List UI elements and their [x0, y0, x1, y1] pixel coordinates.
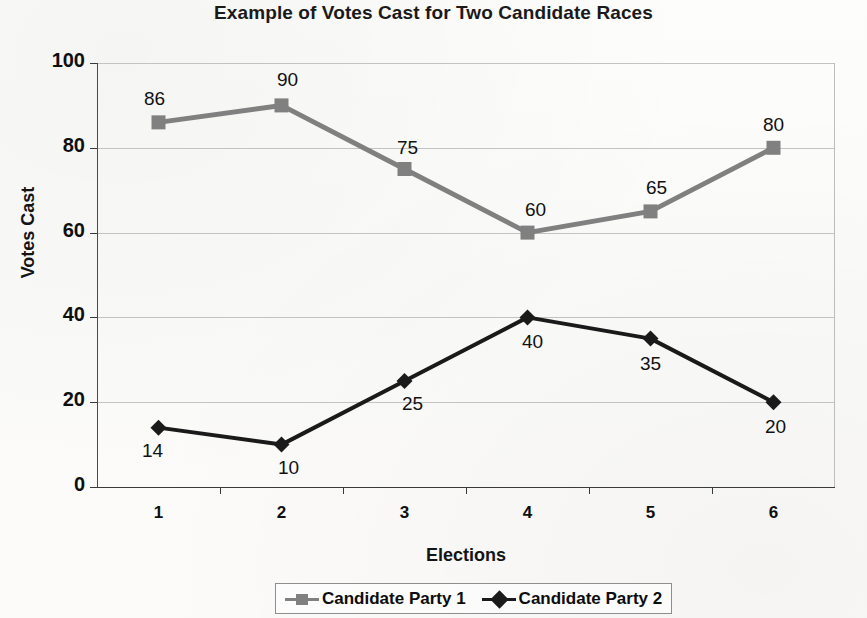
- data-point-marker: [643, 331, 659, 347]
- x-tick-label: 3: [375, 503, 435, 523]
- data-point-marker: [521, 226, 535, 240]
- y-tick-label: 20: [15, 388, 85, 411]
- y-tick-label: 60: [15, 219, 85, 242]
- legend-item[interactable]: Candidate Party 2: [482, 589, 663, 609]
- data-point-label: 14: [121, 440, 185, 462]
- x-axis-title: Elections: [97, 545, 835, 566]
- x-tick-mark: [220, 487, 221, 494]
- gridline: [97, 487, 835, 488]
- y-tick-mark: [90, 487, 97, 488]
- x-tick-label: 2: [252, 503, 312, 523]
- y-tick-mark: [90, 402, 97, 403]
- legend-square-marker-icon: [285, 592, 319, 606]
- series-line: [159, 317, 774, 444]
- x-tick-label: 4: [498, 503, 558, 523]
- legend-label: Candidate Party 1: [322, 589, 466, 609]
- data-point-label: 10: [257, 457, 321, 479]
- series-lines: [97, 63, 835, 487]
- data-point-marker: [275, 98, 289, 112]
- x-tick-mark: [343, 487, 344, 494]
- data-point-label: 35: [619, 353, 683, 375]
- x-tick-label: 6: [744, 503, 804, 523]
- y-tick-label: 40: [15, 303, 85, 326]
- legend-label: Candidate Party 2: [519, 589, 663, 609]
- data-point-marker: [152, 115, 166, 129]
- y-tick-label: 0: [15, 473, 85, 496]
- x-tick-label: 5: [621, 503, 681, 523]
- line-chart: Example of Votes Cast for Two Candidate …: [0, 0, 867, 618]
- series-line: [159, 105, 774, 232]
- data-point-marker: [766, 394, 782, 410]
- x-tick-mark: [466, 487, 467, 494]
- data-point-label: 80: [742, 114, 806, 136]
- chart-title: Example of Votes Cast for Two Candidate …: [0, 2, 867, 24]
- data-point-marker: [397, 373, 413, 389]
- x-tick-mark: [712, 487, 713, 494]
- data-point-label: 25: [381, 393, 445, 415]
- y-tick-mark: [90, 233, 97, 234]
- data-point-label: 90: [256, 69, 320, 91]
- data-point-label: 20: [744, 416, 808, 438]
- data-point-marker: [398, 162, 412, 176]
- data-point-marker: [274, 437, 290, 453]
- y-tick-mark: [90, 148, 97, 149]
- data-point-marker: [151, 420, 167, 436]
- plot-area: 869075606580141025403520: [97, 63, 835, 487]
- legend-item[interactable]: Candidate Party 1: [285, 589, 466, 609]
- y-tick-mark: [90, 317, 97, 318]
- data-point-marker: [520, 309, 536, 325]
- data-point-marker: [767, 141, 781, 155]
- legend-diamond-marker-icon: [482, 592, 516, 606]
- y-tick-mark: [90, 63, 97, 64]
- x-tick-label: 1: [129, 503, 189, 523]
- data-point-marker: [644, 204, 658, 218]
- x-tick-mark: [589, 487, 590, 494]
- data-point-label: 75: [376, 137, 440, 159]
- data-point-label: 40: [501, 331, 565, 353]
- chart-legend: Candidate Party 1Candidate Party 2: [275, 583, 672, 614]
- y-tick-label: 80: [15, 134, 85, 157]
- data-point-label: 60: [504, 199, 568, 221]
- y-tick-label: 100: [15, 49, 85, 72]
- data-point-label: 65: [625, 177, 689, 199]
- data-point-label: 86: [123, 88, 187, 110]
